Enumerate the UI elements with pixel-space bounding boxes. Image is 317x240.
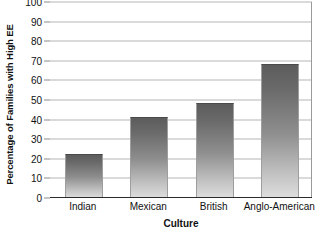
x-axis-line bbox=[50, 197, 312, 199]
y-axis-tick-label: 100 bbox=[25, 0, 42, 8]
bar-series bbox=[50, 2, 312, 198]
y-axis-tick-label: 90 bbox=[31, 16, 42, 27]
y-axis-tick-label: 70 bbox=[31, 55, 42, 66]
y-axis-tick-label: 80 bbox=[31, 36, 42, 47]
plot-area bbox=[50, 2, 312, 198]
x-axis-tick-label: Anglo-American bbox=[244, 201, 315, 212]
y-axis-tick-label: 40 bbox=[31, 114, 42, 125]
x-axis-title: Culture bbox=[50, 218, 312, 229]
x-axis-tick-label: Indian bbox=[69, 201, 96, 212]
y-axis-tick-label: 0 bbox=[36, 193, 42, 204]
y-axis-tick-label: 20 bbox=[31, 153, 42, 164]
x-axis-tick-label: British bbox=[200, 201, 228, 212]
y-axis-tick-label: 50 bbox=[31, 95, 42, 106]
bar bbox=[261, 64, 299, 198]
plot-right-border bbox=[311, 2, 312, 198]
y-axis-tick-label: 60 bbox=[31, 75, 42, 86]
bar bbox=[196, 103, 234, 198]
bar bbox=[65, 154, 103, 198]
y-axis-tick-labels: 0102030405060708090100 bbox=[14, 2, 42, 198]
y-axis-tick-label: 10 bbox=[31, 173, 42, 184]
bar-chart-figure: Percentage of Families with High EE 0102… bbox=[0, 0, 317, 240]
x-axis-tick-labels: IndianMexicanBritishAnglo-American bbox=[50, 201, 312, 217]
y-axis-tick-label: 30 bbox=[31, 134, 42, 145]
bar bbox=[130, 117, 168, 198]
x-axis-tick-label: Mexican bbox=[130, 201, 167, 212]
